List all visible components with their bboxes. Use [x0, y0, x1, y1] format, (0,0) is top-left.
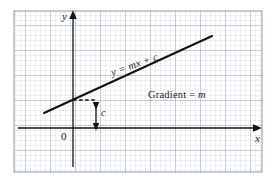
intercept-label: c: [101, 108, 105, 118]
y-axis-label: y: [62, 11, 67, 22]
graph-canvas: [0, 0, 278, 188]
grid-paper: [14, 11, 262, 172]
gradient-symbol: m: [198, 89, 206, 100]
line-graph-figure: y x 0 c y = mx + c Gradient = m: [0, 0, 278, 188]
origin-label: 0: [61, 131, 67, 142]
gradient-annotation-text: Gradient =: [148, 89, 198, 100]
gradient-annotation: Gradient = m: [148, 90, 206, 101]
x-axis-label: x: [255, 133, 260, 144]
